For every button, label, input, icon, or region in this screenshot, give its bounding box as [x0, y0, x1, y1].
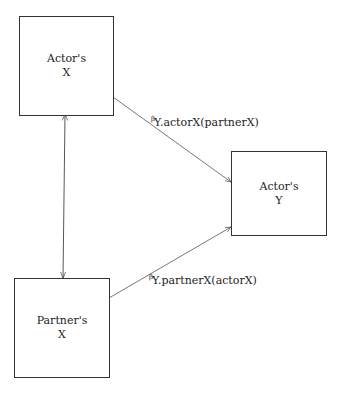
edge-label-partner-effect: βY.partnerX(actorX): [149, 271, 257, 287]
edge-label-text: Y.actorX(partnerX): [154, 116, 259, 129]
node-partner-x: Partner's X: [14, 278, 110, 378]
node-actor-x: Actor's X: [19, 16, 114, 116]
edge-actorx-partnerx-correlation: [63, 115, 65, 278]
edge-label-actor-effect: βY.actorX(partnerX): [151, 113, 259, 129]
edge-label-text: Y.partnerX(actorX): [152, 274, 257, 287]
node-actor-y-label: Actor's Y: [259, 180, 298, 208]
node-partner-x-label: Partner's X: [37, 314, 88, 342]
edge-actorx-to-actory: [113, 97, 231, 182]
edge-partnerx-to-actory: [109, 227, 231, 298]
node-actor-y: Actor's Y: [231, 151, 327, 236]
node-actor-x-label: Actor's X: [47, 52, 86, 80]
